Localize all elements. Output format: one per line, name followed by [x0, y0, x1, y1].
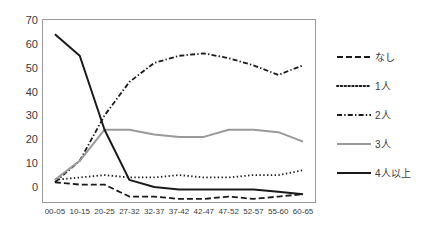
legend-label: 1人: [375, 81, 391, 92]
x-axis-tick-labels: 00-0510-1520-2527-3232-3737-4242-4747-52…: [45, 207, 314, 216]
x-tick-label: 20-25: [94, 207, 115, 216]
x-tick-label: 55-60: [268, 207, 289, 216]
y-tick-label: 60: [26, 38, 38, 50]
x-tick-label: 52-57: [243, 207, 264, 216]
x-tick-label: 60-65: [293, 207, 314, 216]
y-tick-label: 20: [26, 133, 38, 145]
x-tick-label: 42-47: [194, 207, 215, 216]
y-tick-label: 50: [26, 62, 38, 74]
y-tick-label: 30: [26, 109, 38, 121]
legend-label: なし: [375, 52, 395, 63]
x-tick-label: 47-52: [218, 207, 239, 216]
y-tick-label: 0: [32, 181, 38, 193]
x-tick-label: 10-15: [69, 207, 90, 216]
y-tick-label: 70: [26, 14, 38, 26]
legend-label: 3人: [375, 139, 391, 150]
x-tick-label: 27-32: [119, 207, 140, 216]
plot-area-frame: [43, 20, 316, 203]
x-tick-label: 32-37: [144, 207, 165, 216]
x-tick-label: 00-05: [45, 207, 66, 216]
legend-label: 4人以上: [375, 168, 411, 179]
y-tick-label: 10: [26, 157, 38, 169]
y-tick-label: 40: [26, 86, 38, 98]
x-tick-label: 37-42: [169, 207, 190, 216]
legend-label: 2人: [375, 110, 391, 121]
chart-canvas: 706050403020100 00-0510-1520-2527-3232-3…: [0, 0, 434, 234]
line-chart: 706050403020100 00-0510-1520-2527-3232-3…: [0, 0, 434, 234]
